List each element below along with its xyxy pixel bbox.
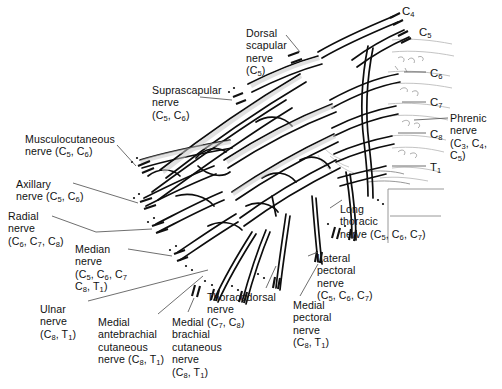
label-line: nerve (C5, C6) [25, 145, 115, 157]
label-line: cutaneous [98, 341, 164, 353]
label-line: Musculocutaneous [25, 133, 115, 145]
label-line: brachial [172, 328, 222, 340]
label-line: Thoracodorsal [207, 291, 276, 303]
label-phrenic-nerve: Phrenicnerve(C3, C4, C5) [450, 112, 502, 162]
label-dorsal-scapular-nerve: Dorsalscapularnerve(C5) [246, 27, 287, 77]
label-line: nerve [172, 353, 222, 365]
label-line: nerve [293, 324, 332, 336]
label-line: antebrachial [98, 328, 164, 340]
label-line: Medial [293, 299, 332, 311]
label-line: scapular [246, 39, 287, 51]
label-line: Ulnar [40, 303, 76, 315]
root-label-t1: T1 [430, 161, 441, 173]
label-line: nerve [450, 124, 502, 136]
label-line: (C7, C8) [207, 316, 276, 328]
label-musculocutaneous-nerve: Musculocutaneousnerve (C5, C6) [25, 133, 115, 158]
label-line: Suprascapular [152, 84, 222, 96]
label-line: pectoral [317, 264, 373, 276]
label-thoracodorsal-nerve: Thoracodorsalnerve(C7, C8) [207, 291, 276, 328]
root-label-c8: C8 [430, 128, 442, 140]
label-line: Long [340, 203, 426, 215]
label-line: nerve [75, 255, 127, 267]
label-line: (C5, C6) [152, 109, 222, 121]
label-line: (C5, C6, C7 [75, 268, 127, 280]
root-label-c6: C6 [430, 67, 442, 79]
label-line: nerve (C8, T1) [98, 353, 164, 365]
label-line: pectoral [293, 311, 332, 323]
root-label-c7: C7 [430, 96, 442, 108]
label-line: cutaneous [172, 341, 222, 353]
label-line: nerve (C5, C6) [16, 190, 84, 202]
label-line: thoracic [340, 215, 426, 227]
root-label-c4: C4 [402, 5, 414, 17]
label-line: Median [75, 243, 127, 255]
label-line: (C6, C7, C8) [8, 235, 64, 247]
label-line: nerve [8, 222, 64, 234]
label-ulnar-nerve: Ulnarnerve(C8, T1) [40, 303, 76, 340]
label-long-thoracic-nerve: Longthoracicnerve (C5, C6, C7) [340, 203, 426, 240]
label-medial-antebrachial-cutaneous-nerve: Medialantebrachialcutaneousnerve (C8, T1… [98, 316, 164, 366]
label-line: (C8, T1) [172, 366, 222, 378]
label-line: nerve [207, 303, 276, 315]
label-medial-pectoral-nerve: Medialpectoralnerve(C8, T1) [293, 299, 332, 349]
label-line: (C3, C4, C5) [450, 137, 502, 162]
label-line: Lateral [317, 252, 373, 264]
label-line: nerve [246, 52, 287, 64]
label-line: nerve [152, 96, 222, 108]
label-line: (C8, T1) [293, 336, 332, 348]
label-line: Radial [8, 210, 64, 222]
root-label-c5: C5 [419, 26, 431, 38]
label-line: (C8, T1) [40, 328, 76, 340]
label-line: nerve (C5, C6, C7) [340, 228, 426, 240]
label-line: Axillary [16, 178, 84, 190]
label-suprascapular-nerve: Suprascapularnerve(C5, C6) [152, 84, 222, 121]
label-line: nerve [40, 315, 76, 327]
label-line: Phrenic [450, 112, 502, 124]
vertebrae-outline [380, 39, 454, 181]
label-radial-nerve: Radialnerve(C6, C7, C8) [8, 210, 64, 247]
label-axillary-nerve: Axillarynerve (C5, C6) [16, 178, 84, 203]
label-median-nerve: Mediannerve(C5, C6, C7C8, T1) [75, 243, 127, 293]
label-line: C8, T1) [75, 280, 127, 292]
brachial-plexus-figure: Dorsalscapularnerve(C5) Suprascapularner… [0, 0, 502, 389]
label-line: Dorsal [246, 27, 287, 39]
label-line: nerve [317, 277, 373, 289]
label-line: (C5) [246, 64, 287, 76]
label-lateral-pectoral-nerve: Lateralpectoralnerve(C5, C6, C7) [317, 252, 373, 302]
label-line: Medial [98, 316, 164, 328]
